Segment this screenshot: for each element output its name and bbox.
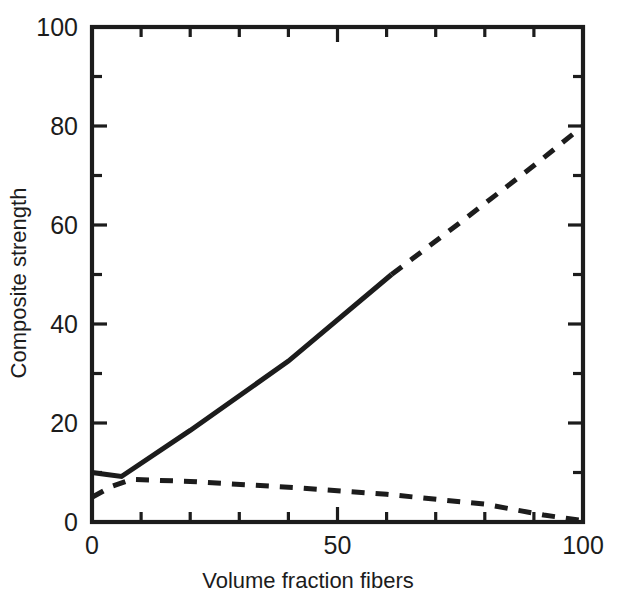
y-tick-label: 20 <box>50 409 78 437</box>
x-tick-label: 50 <box>324 531 352 559</box>
y-tick-label: 60 <box>50 211 78 239</box>
y-tick-label: 100 <box>36 13 78 41</box>
composite-strength-plot: 100806040200 050100 Volume fraction fibe… <box>0 0 617 598</box>
y-tick-label: 80 <box>50 112 78 140</box>
chart-figure: 100806040200 050100 Volume fraction fibe… <box>0 0 617 598</box>
y-tick-label: 0 <box>64 508 78 536</box>
x-tick-label: 0 <box>85 531 99 559</box>
x-tick-label: 100 <box>562 531 604 559</box>
y-axis-title: Composite strength <box>6 188 31 379</box>
y-tick-label: 40 <box>50 310 78 338</box>
x-axis-title: Volume fraction fibers <box>202 568 414 593</box>
